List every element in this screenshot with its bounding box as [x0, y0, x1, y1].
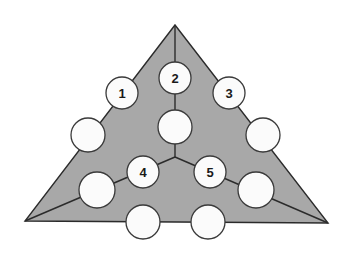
node-empty-n6[interactable]: [71, 118, 105, 152]
node-empty-n10[interactable]: [238, 172, 274, 208]
node-circle[interactable]: [246, 118, 280, 152]
node-empty-n11[interactable]: [126, 205, 160, 239]
node-empty-n9[interactable]: [79, 172, 115, 208]
node-1[interactable]: 1: [106, 77, 138, 109]
node-empty-n12[interactable]: [191, 205, 225, 239]
node-circle[interactable]: [213, 77, 245, 109]
diagram-canvas: 12345: [0, 0, 350, 255]
node-2[interactable]: 2: [159, 62, 191, 94]
node-4[interactable]: 4: [127, 156, 159, 188]
node-circle[interactable]: [191, 205, 225, 239]
node-circle[interactable]: [194, 156, 226, 188]
node-empty-n8[interactable]: [246, 118, 280, 152]
node-circle[interactable]: [127, 156, 159, 188]
node-circle[interactable]: [159, 62, 191, 94]
node-circle[interactable]: [106, 77, 138, 109]
node-circle[interactable]: [158, 110, 192, 144]
node-empty-n7[interactable]: [158, 110, 192, 144]
node-circle[interactable]: [126, 205, 160, 239]
node-3[interactable]: 3: [213, 77, 245, 109]
node-circle[interactable]: [71, 118, 105, 152]
node-5[interactable]: 5: [194, 156, 226, 188]
triangle-partition-diagram: 12345: [0, 0, 350, 255]
node-circle[interactable]: [238, 172, 274, 208]
node-circle[interactable]: [79, 172, 115, 208]
